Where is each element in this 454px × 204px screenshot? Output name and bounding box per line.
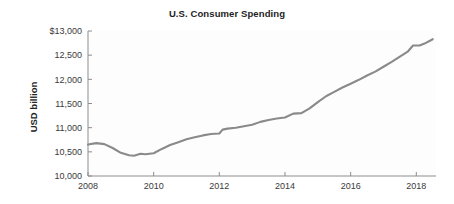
x-tick-label: 2016 [341,181,361,191]
chart-container: U.S. Consumer Spending USD billion 10,00… [0,0,454,204]
x-tick-label: 2018 [406,181,426,191]
y-tick-label: 10,500 [54,147,82,157]
y-tick-label: 12,500 [54,50,82,60]
y-tick-label: 10,000 [54,171,82,181]
y-tick-label: 11,000 [55,123,82,133]
x-tick-label: 2014 [275,181,295,191]
y-tick-label: 11,500 [55,99,82,109]
y-tick-label: $13,000 [49,26,82,36]
x-tick-label: 2010 [144,181,164,191]
y-axis-ticks: 10,00010,50011,00011,50012,00012,500$13,… [49,26,92,181]
x-tick-label: 2012 [209,181,229,191]
plot-svg: 10,00010,50011,00011,50012,00012,500$13,… [0,0,454,204]
y-tick-label: 12,000 [54,75,82,85]
x-tick-label: 2008 [78,181,98,191]
